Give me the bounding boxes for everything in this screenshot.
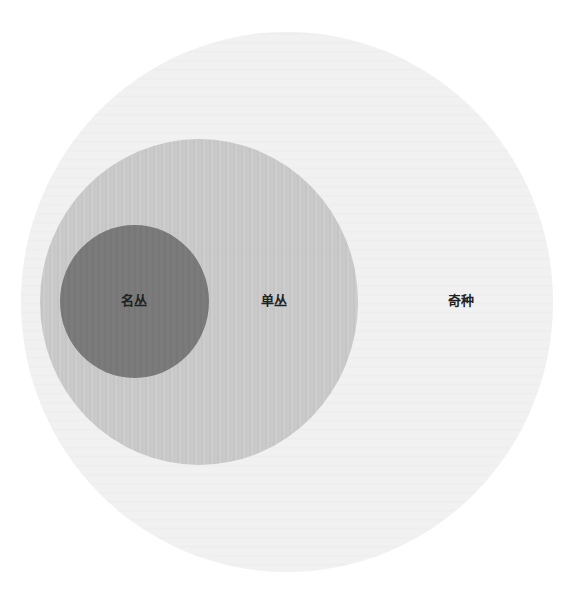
nested-set-diagram: 名丛 单丛 奇种 <box>0 0 577 598</box>
label-mingcong: 名丛 <box>121 293 148 309</box>
label-qizhong: 奇种 <box>448 293 475 309</box>
label-dancong: 单丛 <box>261 293 288 309</box>
